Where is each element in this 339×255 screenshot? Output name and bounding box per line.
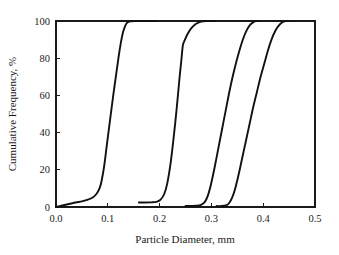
x-tick-label: 0.1 [101,213,114,224]
x-tick-label: 0.2 [153,213,166,224]
y-tick-label: 100 [34,16,50,27]
data-curve-1 [56,21,157,207]
x-axis-tick-labels: 0.00.10.20.30.40.5 [49,213,321,224]
y-tick-label: 40 [40,127,51,138]
x-tick-label: 0.3 [205,213,218,224]
data-curve-3 [186,21,260,206]
y-tick-label: 60 [40,90,51,101]
chart-figure: 0.00.10.20.30.40.5 020406080100 Particle… [0,0,339,255]
y-tick-label: 80 [40,53,51,64]
x-tick-label: 0.4 [257,213,271,224]
y-tick-label: 20 [40,164,51,175]
data-curve-2 [139,21,216,203]
x-tick-label: 0.0 [49,213,62,224]
cumulative-frequency-chart: 0.00.10.20.30.40.5 020406080100 Particle… [0,0,339,255]
y-axis-title: Cumulative Frequency, % [6,57,18,171]
x-tick-label: 0.5 [308,213,321,224]
y-axis-tick-labels: 020406080100 [34,16,50,213]
plot-frame [56,21,315,207]
x-axis-title: Particle Diameter, mm [135,233,235,245]
y-axis-ticks [56,21,60,207]
data-curve-4 [217,21,288,206]
y-tick-label: 0 [45,202,50,213]
data-series-group [56,21,288,207]
